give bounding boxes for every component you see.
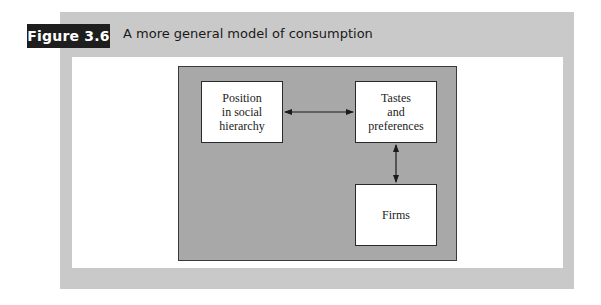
node-label: Tastes and preferences <box>368 91 423 133</box>
node-tastes-and-preferences: Tastes and preferences <box>355 81 437 143</box>
figure-number-badge: Figure 3.6 <box>27 24 110 48</box>
figure-caption: A more general model of consumption <box>123 26 373 41</box>
node-position-in-social-hierarchy: Position in social hierarchy <box>201 81 283 143</box>
node-firms: Firms <box>355 184 437 246</box>
node-label: Firms <box>382 208 410 222</box>
figure-number: Figure 3.6 <box>27 28 109 44</box>
node-label: Position in social hierarchy <box>219 91 264 133</box>
